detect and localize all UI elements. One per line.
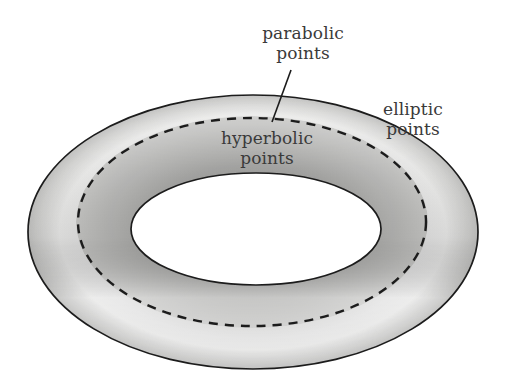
- label-elliptic-line1: elliptic: [383, 99, 443, 119]
- label-parabolic-line1: parabolic: [262, 23, 344, 43]
- label-parabolic-points: parabolic points: [243, 23, 363, 63]
- label-hyperbolic-line1: hyperbolic: [221, 128, 313, 148]
- label-hyperbolic-line2: points: [203, 148, 331, 168]
- label-hyperbolic-points: hyperbolic points: [203, 128, 331, 168]
- label-elliptic-line2: points: [360, 119, 466, 139]
- label-elliptic-points: elliptic points: [360, 99, 466, 139]
- torus-curvature-figure: parabolic points elliptic points hyperbo…: [0, 0, 505, 388]
- label-parabolic-line2: points: [243, 43, 363, 63]
